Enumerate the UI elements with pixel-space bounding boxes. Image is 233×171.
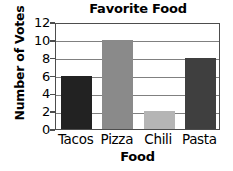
bar-tacos	[61, 76, 92, 130]
y-axis-tick-label: 0	[20, 123, 50, 136]
bar-pizza	[102, 40, 133, 129]
x-axis-tick-label: Chili	[138, 132, 179, 147]
bar-chart: Favorite Food Number of Votes 024681012 …	[0, 0, 233, 171]
x-axis-tick-label: Pizza	[96, 132, 137, 147]
plot-area	[55, 23, 220, 130]
y-axis-tick-label: 6	[20, 70, 50, 83]
x-axis-tick-label: Pasta	[179, 132, 220, 147]
y-axis-tick-label: 2	[20, 105, 50, 118]
x-axis-title: Food	[55, 149, 220, 164]
y-axis-tick-label: 12	[20, 16, 50, 29]
bars-group	[56, 24, 219, 129]
y-axis-tick-label: 8	[20, 52, 50, 65]
bar-pasta	[185, 58, 216, 129]
chart-title: Favorite Food	[55, 1, 221, 16]
y-axis-tick-label: 10	[20, 34, 50, 47]
y-axis-tick-label: 4	[20, 87, 50, 100]
x-axis-tick-label: Tacos	[55, 132, 96, 147]
bar-chili	[144, 111, 175, 129]
